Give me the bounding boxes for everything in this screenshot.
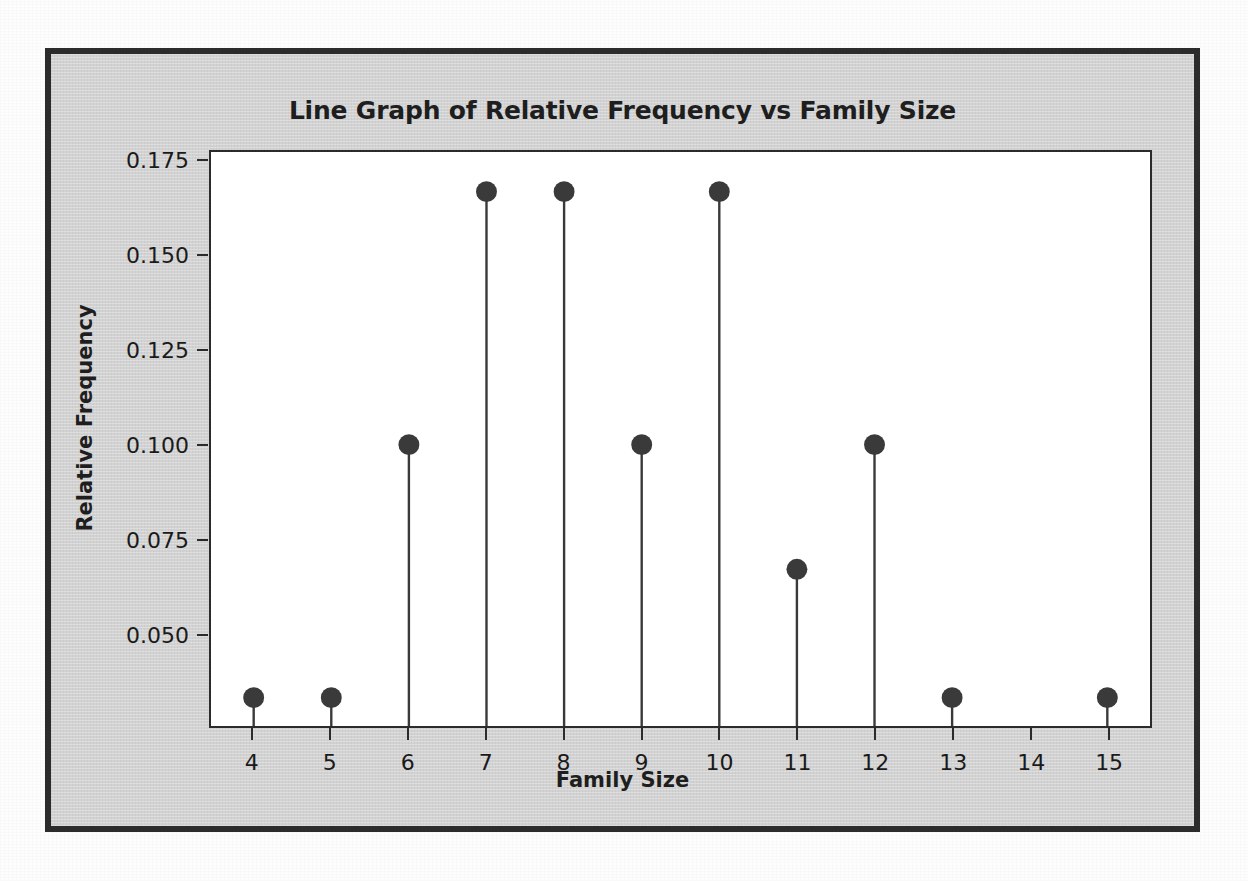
x-tick-mark xyxy=(407,728,409,740)
x-tick-mark xyxy=(952,728,954,740)
x-tick-mark xyxy=(718,728,720,740)
data-point-marker xyxy=(786,559,807,580)
plot-svg xyxy=(211,152,1150,726)
y-tick-label: 0.175 xyxy=(69,147,189,172)
x-tick-mark xyxy=(485,728,487,740)
chart-figure-frame: Line Graph of Relative Frequency vs Fami… xyxy=(45,48,1200,832)
y-tick-mark xyxy=(197,254,208,256)
x-tick-mark xyxy=(563,728,565,740)
y-tick-mark xyxy=(197,349,208,351)
data-point-marker xyxy=(864,434,885,455)
data-point-marker xyxy=(321,687,342,708)
x-tick-mark xyxy=(329,728,331,740)
page-canvas: Line Graph of Relative Frequency vs Fami… xyxy=(0,0,1248,881)
data-point-marker xyxy=(942,687,963,708)
y-tick-mark xyxy=(197,444,208,446)
plot-area xyxy=(209,150,1152,728)
y-tick-mark xyxy=(197,634,208,636)
chart-figure-background: Line Graph of Relative Frequency vs Fami… xyxy=(51,54,1194,826)
data-point-marker xyxy=(398,434,419,455)
y-tick-label: 0.150 xyxy=(69,242,189,267)
data-point-marker xyxy=(243,687,264,708)
x-tick-mark xyxy=(641,728,643,740)
x-tick-mark xyxy=(796,728,798,740)
x-tick-mark xyxy=(874,728,876,740)
data-point-marker xyxy=(631,434,652,455)
data-point-marker xyxy=(709,181,730,202)
data-point-marker xyxy=(1097,687,1118,708)
x-tick-mark xyxy=(251,728,253,740)
y-tick-mark xyxy=(197,539,208,541)
data-point-marker xyxy=(476,181,497,202)
y-axis-title: Relative Frequency xyxy=(73,268,97,568)
data-point-marker xyxy=(554,181,575,202)
y-tick-label: 0.050 xyxy=(69,622,189,647)
chart-title: Line Graph of Relative Frequency vs Fami… xyxy=(51,96,1194,125)
y-tick-mark xyxy=(197,159,208,161)
x-tick-mark xyxy=(1030,728,1032,740)
x-tick-mark xyxy=(1108,728,1110,740)
x-axis-title: Family Size xyxy=(51,768,1194,792)
